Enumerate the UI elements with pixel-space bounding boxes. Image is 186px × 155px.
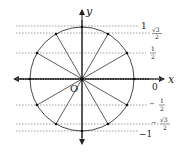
y-axis-label: y xyxy=(85,5,93,18)
label-neg-sqrt3-over-2: − √3 2 xyxy=(151,116,170,131)
label-0: 0 xyxy=(152,82,158,92)
label-sqrt3-over-2: √3 2 xyxy=(152,26,162,40)
svg-text:2: 2 xyxy=(160,105,164,112)
svg-text:2: 2 xyxy=(163,124,167,131)
svg-text:2: 2 xyxy=(155,33,159,40)
unit-circle-diagram: y x O 1 √3 2 1 2 0 − 1 2 − √3 2 −1 xyxy=(0,0,186,155)
svg-text:−: − xyxy=(151,119,157,127)
svg-text:1: 1 xyxy=(160,97,164,104)
label-neg-1-over-2: − 1 2 xyxy=(149,97,165,112)
svg-text:−: − xyxy=(149,100,155,108)
x-axis-label: x xyxy=(168,73,175,86)
svg-text:√3: √3 xyxy=(160,116,168,123)
label-1: 1 xyxy=(141,21,147,31)
svg-text:√3: √3 xyxy=(152,26,160,33)
origin-label: O xyxy=(70,83,78,94)
svg-text:1: 1 xyxy=(151,45,155,52)
label-1-over-2: 1 2 xyxy=(150,45,156,60)
label-neg-1: −1 xyxy=(139,129,152,139)
svg-text:2: 2 xyxy=(151,53,155,60)
